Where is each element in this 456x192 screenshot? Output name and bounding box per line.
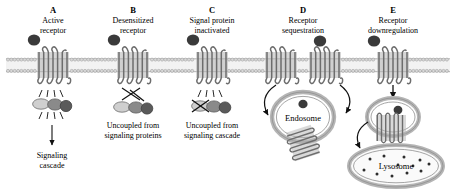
panel-c-letter: C — [209, 5, 215, 15]
panel-b-heading-line2: receptor — [120, 26, 147, 35]
receptor-e — [377, 47, 411, 84]
ligand-a — [28, 34, 40, 45]
activation-rays-c — [198, 90, 222, 97]
uncoupling-x-b — [122, 88, 144, 101]
panel-b-letter: B — [130, 5, 136, 15]
panel-a: A Active receptor Signaling cascade — [28, 5, 72, 170]
g-protein-c — [192, 101, 231, 113]
panel-c-heading-line2: inactivated — [194, 26, 229, 35]
panel-b-heading-line1: Desensitized — [113, 16, 154, 25]
degradation-arrow-e — [357, 122, 368, 148]
panel-d-heading-line2: sequestration — [282, 26, 324, 35]
g-protein-a — [33, 99, 72, 112]
panel-a-heading-line1: Active — [42, 16, 64, 25]
panel-a-caption-line1: Signaling — [37, 151, 68, 160]
receptor-d-left — [265, 47, 299, 84]
internalization-arrow-d-right — [340, 85, 350, 113]
panel-a-heading-line2: receptor — [40, 26, 67, 35]
panel-c-caption-line2: signaling cascade — [184, 131, 241, 140]
panel-c-heading-line1: Signal protein — [189, 16, 234, 25]
receptor-in-endosome-e — [376, 113, 406, 142]
endosome-e — [367, 98, 419, 143]
diagram-canvas: A Active receptor Signaling cascade B De… — [0, 0, 456, 192]
ligand-d — [314, 35, 326, 46]
panel-e: E Receptor downregulation — [349, 5, 443, 187]
receptor-b — [117, 47, 151, 84]
receptor-c — [196, 47, 230, 84]
panel-b-caption-line1: Uncoupled from — [107, 121, 160, 130]
endosome-d: Endosome — [272, 92, 334, 162]
panel-c-caption-line1: Uncoupled from — [186, 121, 239, 130]
panel-b-caption-line2: signaling proteins — [104, 131, 161, 140]
panel-b: B Desensitized receptor Uncoupled from s… — [104, 5, 161, 140]
panel-e-letter: E — [390, 5, 396, 15]
panel-a-letter: A — [50, 5, 57, 15]
endosome-d-label: Endosome — [285, 113, 321, 123]
lysosome-e-label: Lysosome — [379, 161, 414, 171]
ligand-in-endosome-e — [394, 106, 403, 114]
figure-gpcr-regulation: A Active receptor Signaling cascade B De… — [0, 0, 456, 192]
panel-e-heading-line1: Receptor — [379, 16, 408, 25]
g-protein-b — [114, 102, 153, 114]
panel-a-caption-line2: cascade — [40, 161, 65, 170]
lysosome-e: Lysosome — [349, 145, 443, 187]
panel-d: D Receptor sequestration Endosome — [264, 5, 349, 162]
panel-d-heading-line1: Receptor — [289, 16, 318, 25]
ligand-in-endosome-d — [298, 100, 307, 109]
cascade-rays-a — [39, 112, 63, 119]
receptor-in-endosome-d — [284, 124, 321, 162]
receptor-a — [37, 47, 71, 84]
ligand-c — [187, 34, 199, 45]
receptor-d-right — [309, 47, 343, 84]
panel-e-heading-line2: downregulation — [368, 26, 418, 35]
panel-d-letter: D — [300, 5, 306, 15]
activation-rays-a — [39, 90, 63, 97]
ligand-e — [368, 35, 380, 46]
ligand-b — [108, 34, 120, 45]
